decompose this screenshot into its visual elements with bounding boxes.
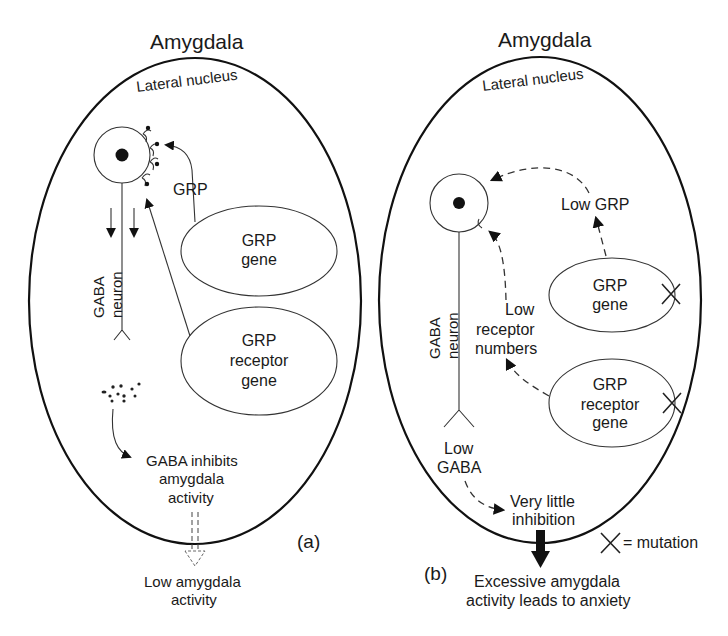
- panel-b-grp-gene: [549, 258, 675, 332]
- panel-b-grp-gene-arrow-icon: [596, 218, 606, 256]
- panel-b-inhibition-arrow-icon: [465, 481, 503, 510]
- panel-b-receptor-up-arrow-icon: [490, 232, 506, 300]
- panel-b-label: (b): [424, 563, 447, 584]
- panel-a-region-label: Lateral nucleus: [135, 66, 238, 95]
- mutation-legend-text: = mutation: [623, 534, 698, 551]
- panel-b-grp-arrow-icon: [492, 168, 589, 193]
- panel-a-effect-line3: activity: [168, 489, 214, 506]
- panel-b-thick-down-arrow-icon: [531, 530, 550, 568]
- panel-a-effect-line2: amygdala: [159, 470, 225, 487]
- panel-a-neuron-label-2: neuron: [108, 271, 125, 318]
- panel-b-effect-line2: inhibition: [512, 511, 575, 528]
- panel-a-grp-gene-line2: gene: [241, 251, 277, 268]
- mutation-legend: = mutation: [601, 533, 698, 553]
- panel-a-outcome-line2: activity: [171, 591, 217, 608]
- panel-b-neuron-label-1: GABA: [426, 317, 443, 359]
- panel-b-receptor-label-3: numbers: [475, 340, 537, 357]
- panel-b-receptor-gene-line1: GRP: [593, 376, 628, 393]
- panel-a-receptor-gene-line1: GRP: [242, 332, 277, 349]
- panel-b-gaba-label-1: Low: [444, 440, 474, 457]
- panel-b: Amygdala Lateral nucleus GABA neuron Low…: [379, 28, 701, 609]
- panel-a: Amygdala Lateral nucleus GABA neuron: [29, 30, 361, 608]
- panel-a-receptor-icons: [142, 126, 159, 186]
- panel-b-title: Amygdala: [498, 28, 592, 51]
- panel-a-receptor-gene-line3: gene: [241, 372, 277, 389]
- panel-a-grp-gene-line1: GRP: [242, 232, 277, 249]
- panel-a-dashed-arrow-icon: [185, 512, 205, 566]
- panel-b-receptor-label-2: receptor: [476, 321, 535, 338]
- panel-b-neuron-label-2: neuron: [444, 312, 461, 359]
- mutation-legend-icon: [601, 533, 620, 553]
- panel-b-neuron-soma: [430, 174, 488, 232]
- panel-b-receptor-gene-mutation-icon: [663, 393, 681, 413]
- panel-b-receptor-gene-arrow-icon: [507, 360, 549, 396]
- panel-a-label: (a): [297, 531, 320, 552]
- panel-a-receptor-arrow-icon: [147, 200, 190, 336]
- panel-b-grp-gene-mutation-icon: [662, 284, 680, 304]
- panel-b-grp-label: Low GRP: [561, 196, 629, 213]
- panel-a-neuron-soma: [94, 127, 150, 183]
- panel-a-inhibit-arrow-icon: [112, 409, 130, 457]
- panel-a-grp-label: GRP: [173, 181, 208, 198]
- panel-b-grp-gene-line2: gene: [592, 296, 628, 313]
- panel-a-title: Amygdala: [150, 30, 244, 53]
- panel-b-amygdala-outline: [379, 57, 701, 543]
- amygdala-diagram: Amygdala Lateral nucleus GABA neuron: [0, 0, 728, 636]
- panel-b-grp-gene-line1: GRP: [593, 277, 628, 294]
- panel-b-gaba-label-2: GABA: [437, 459, 482, 476]
- panel-a-neuron-label-1: GABA: [90, 276, 107, 318]
- panel-b-receptor-gene-line2: receptor: [581, 396, 640, 413]
- panel-b-receptor-gene-line3: gene: [592, 414, 628, 431]
- panel-b-receptor-label-1: Low: [505, 301, 535, 318]
- panel-b-effect-line1: Very little: [510, 493, 575, 510]
- panel-b-outcome-line2: activity leads to anxiety: [466, 592, 631, 609]
- panel-a-receptor-gene-line2: receptor: [230, 352, 289, 369]
- panel-a-gaba-vesicles: [102, 382, 141, 402]
- panel-b-outcome-line1: Excessive amygdala: [474, 573, 620, 590]
- panel-a-outcome-line1: Low amygdala: [144, 573, 241, 590]
- panel-a-effect-line1: GABA inhibits: [146, 452, 238, 469]
- panel-b-region-label: Lateral nucleus: [481, 65, 584, 94]
